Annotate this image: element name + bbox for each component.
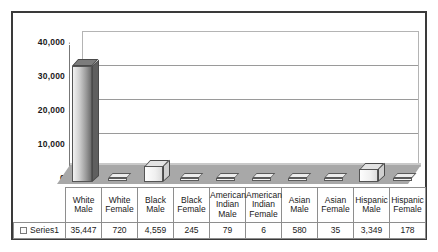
plot-area: 40,000 30,000 20,000 10,000 0 xyxy=(13,13,425,188)
bar-hispanic-female[interactable] xyxy=(393,173,412,182)
value-cell-american-indian-female: 6 xyxy=(246,223,282,239)
y-axis-label-30000: 30,000 xyxy=(13,71,65,81)
bar-front-face xyxy=(393,178,412,181)
y-axis-label-0: 0 xyxy=(13,173,65,183)
table-header-row: White Male White Female Black Male Black… xyxy=(14,188,426,223)
column-header-asian-male: Asian Male xyxy=(282,188,318,223)
bar-front-face xyxy=(359,169,378,182)
y-axis-label-10000: 10,000 xyxy=(13,139,65,149)
y-axis-label-20000: 20,000 xyxy=(13,105,65,115)
chart-frame: 40,000 30,000 20,000 10,000 0 xyxy=(11,11,427,240)
value-cell-american-indian-male: 79 xyxy=(210,223,246,239)
gridline-10000 xyxy=(83,133,418,134)
bar-front-face xyxy=(72,66,92,182)
y-axis-label-40000: 40,000 xyxy=(13,37,65,47)
legend-label: Series1 xyxy=(30,225,59,235)
table-corner-cell xyxy=(14,188,66,223)
bar-side-face xyxy=(92,60,99,182)
value-cell-white-female: 720 xyxy=(102,223,138,239)
bar-white-female[interactable] xyxy=(108,173,127,182)
table-value-row: Series1 35,447 720 4,559 245 79 6 580 35… xyxy=(14,223,426,239)
y-axis-line xyxy=(69,45,70,183)
bar-asian-male[interactable] xyxy=(288,173,307,182)
gridline-20000 xyxy=(83,99,418,100)
bar-front-face xyxy=(180,178,199,181)
bar-black-male[interactable] xyxy=(144,160,163,182)
column-header-american-indian-female: American Indian Female xyxy=(246,188,282,223)
bar-asian-female[interactable] xyxy=(324,173,343,182)
gridline-30000 xyxy=(83,65,418,66)
legend-entry-series1[interactable]: Series1 xyxy=(14,223,66,239)
header-line: Female xyxy=(318,205,353,215)
value-cell-black-female: 245 xyxy=(174,223,210,239)
value-cell-asian-male: 580 xyxy=(282,223,318,239)
header-line: Male xyxy=(138,205,173,215)
header-line: Male xyxy=(210,210,245,220)
bar-white-male[interactable] xyxy=(72,59,92,182)
column-header-hispanic-female: Hispanic Female xyxy=(390,188,426,223)
series-swatch-icon xyxy=(20,227,27,234)
value-cell-asian-female: 35 xyxy=(318,223,354,239)
column-header-american-indian-male: American Indian Male xyxy=(210,188,246,223)
column-header-black-female: Black Female xyxy=(174,188,210,223)
header-line: Female xyxy=(102,205,137,215)
column-header-asian-female: Asian Female xyxy=(318,188,354,223)
bar-hispanic-male[interactable] xyxy=(359,163,378,182)
column-header-black-male: Black Male xyxy=(138,188,174,223)
header-line: Male xyxy=(354,205,389,215)
bar-front-face xyxy=(216,178,235,181)
column-header-white-male: White Male xyxy=(66,188,102,223)
header-line: Male xyxy=(66,205,101,215)
bar-front-face xyxy=(108,178,127,181)
header-line: Female xyxy=(174,205,209,215)
bar-black-female[interactable] xyxy=(180,173,199,182)
column-header-white-female: White Female xyxy=(102,188,138,223)
value-cell-hispanic-male: 3,349 xyxy=(354,223,390,239)
bar-front-face xyxy=(324,178,343,181)
bar-front-face xyxy=(144,166,163,182)
value-cell-white-male: 35,447 xyxy=(66,223,102,239)
plot-back-wall xyxy=(82,31,419,166)
bar-front-face xyxy=(288,178,307,181)
column-header-hispanic-male: Hispanic Male xyxy=(354,188,390,223)
bar-american-indian-male[interactable] xyxy=(216,173,235,182)
header-line: Male xyxy=(282,205,317,215)
bar-american-indian-female[interactable] xyxy=(252,173,271,182)
value-cell-hispanic-female: 178 xyxy=(390,223,426,239)
data-table: White Male White Female Black Male Black… xyxy=(13,187,426,239)
value-cell-black-male: 4,559 xyxy=(138,223,174,239)
header-line: Female xyxy=(390,205,425,215)
bar-front-face xyxy=(252,178,271,181)
header-line: Female xyxy=(246,210,281,220)
